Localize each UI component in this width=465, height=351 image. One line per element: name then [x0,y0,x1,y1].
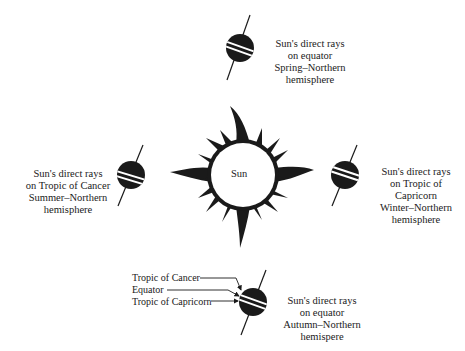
tropic-of-cancer-label: Tropic of Cancer [132,272,200,283]
tropic-of-capricorn-label: Tropic of Capricorn [132,296,212,307]
caption-line: on equator [258,50,362,62]
caption-line: Winter–Northern [366,202,465,214]
caption-line: hemisphere [16,204,120,216]
caption-line: on Tropic of [366,178,465,190]
sun-label: Sun [231,168,247,179]
caption-autumn: Sun's direct rays on equator Autumn–Nort… [272,295,372,343]
caption-line: on Tropic of Cancer [16,180,120,192]
caption-line: Sun's direct rays [366,166,465,178]
globe-spring [222,15,258,80]
caption-line: Sun's direct rays [272,295,372,307]
caption-summer: Sun's direct rays on Tropic of Cancer Su… [16,168,120,216]
caption-spring: Sun's direct rays on equator Spring–Nort… [258,38,362,86]
caption-line: Summer–Northern [16,192,120,204]
caption-line: Autumn–Northern [272,319,372,331]
caption-line: hemisphere [258,74,362,86]
globe-winter [327,145,363,206]
caption-line: Capricorn [366,190,465,202]
caption-line: Spring–Northern [258,62,362,74]
caption-line: hemispere [272,331,372,343]
equator-label: Equator [132,284,164,295]
caption-line: Sun's direct rays [258,38,362,50]
caption-winter: Sun's direct rays on Tropic of Capricorn… [366,166,465,226]
caption-line: on equator [272,307,372,319]
caption-line: hemisphere [366,214,465,226]
caption-line: Sun's direct rays [16,168,120,180]
globe-autumn [235,270,271,335]
tropic-of-cancer-pointer [200,278,241,290]
